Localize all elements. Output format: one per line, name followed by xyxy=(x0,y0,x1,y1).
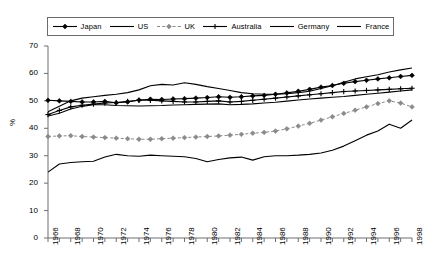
x-axis-tick-label: 1994 xyxy=(370,227,378,245)
y-axis-tick-label: 70 xyxy=(16,42,38,50)
y-axis-tick-label: 20 xyxy=(16,179,38,187)
x-axis-tick-label: 1996 xyxy=(393,227,401,245)
x-axis-tick-label: 1976 xyxy=(165,227,173,245)
x-axis-tick-label: 1972 xyxy=(120,227,128,245)
chart-figure: JapanUSUKAustraliaGermanyFrance % 010203… xyxy=(0,0,435,276)
x-axis-tick-label: 1988 xyxy=(302,227,310,245)
y-axis-tick-label: 10 xyxy=(16,207,38,215)
x-axis-tick-label: 1990 xyxy=(325,227,333,245)
x-axis-tick-label: 1982 xyxy=(234,227,242,245)
x-axis-tick-label: 1984 xyxy=(256,227,264,245)
x-axis-tick-label: 1966 xyxy=(52,227,60,245)
y-axis-tick-label: 30 xyxy=(16,152,38,160)
x-axis-tick-label: 1974 xyxy=(143,227,151,245)
y-axis-tick-label: 50 xyxy=(16,97,38,105)
series-france xyxy=(48,120,412,172)
y-axis-tick-label: 0 xyxy=(16,234,38,242)
y-axis-tick-label: 40 xyxy=(16,124,38,132)
x-axis-tick-label: 1968 xyxy=(74,227,82,245)
x-axis-tick-label: 1992 xyxy=(347,227,355,245)
x-axis-tick-label: 1970 xyxy=(97,227,105,245)
x-axis-tick-label: 1998 xyxy=(416,227,424,245)
x-axis-tick-label: 1978 xyxy=(188,227,196,245)
x-axis-tick-label: 1986 xyxy=(279,227,287,245)
x-axis-tick-label: 1980 xyxy=(211,227,219,245)
y-axis-tick-label: 60 xyxy=(16,69,38,77)
